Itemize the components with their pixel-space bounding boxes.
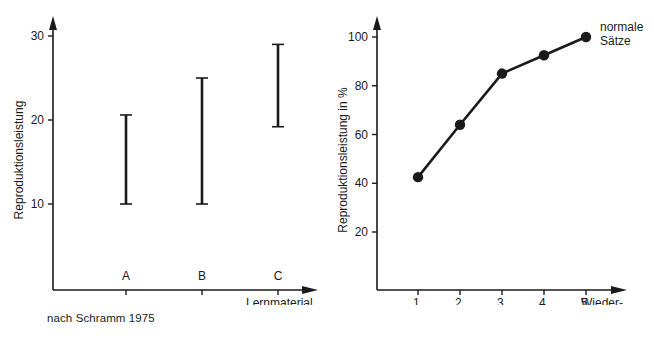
x-tick-label-B: B [198, 269, 206, 283]
y-axis-arrow-icon [49, 16, 57, 30]
x-tick-label-1: 1. [413, 296, 423, 305]
y-tick-label-30: 30 [31, 29, 45, 43]
y-axis-title: Reproduktionsleistung in % [336, 87, 350, 233]
x-axis-arrow-icon [302, 286, 318, 294]
data-point-5 [581, 32, 591, 42]
series-label-line1: normale [600, 20, 644, 34]
x-tick-label-C: C [274, 269, 283, 283]
chart-bierwisch-line-plot: 20406080100Reproduktionsleistung in %1.2… [330, 0, 654, 305]
y-tick-label-60: 60 [355, 128, 369, 142]
data-point-1 [413, 172, 423, 182]
series-line-normale-saetze [418, 37, 586, 177]
range-bar-C [272, 44, 284, 126]
x-axis-title-line1: Wieder- [581, 296, 623, 305]
y-tick-label-100: 100 [348, 30, 368, 44]
chart-schramm-range-plot: 102030ReproduktionsleistungABCLernmateri… [0, 0, 330, 305]
x-tick-label-4: 4. [539, 296, 549, 305]
y-tick-label-20: 20 [355, 225, 369, 239]
x-axis-arrow-icon [611, 286, 627, 294]
caption-schramm: nach Schramm 1975 [47, 312, 155, 324]
y-tick-label-10: 10 [31, 197, 45, 211]
figure-schramm: 102030ReproduktionsleistungABCLernmateri… [0, 0, 330, 345]
x-tick-label-3: 3. [497, 296, 507, 305]
range-bar-B [196, 78, 208, 204]
series-label-line2: Sätze [600, 34, 631, 48]
data-point-4 [539, 50, 549, 60]
data-point-3 [497, 68, 507, 78]
x-tick-label-2: 2. [455, 296, 465, 305]
y-tick-label-40: 40 [355, 176, 369, 190]
figure-bierwisch: 20406080100Reproduktionsleistung in %1.2… [330, 0, 654, 345]
data-point-2 [455, 120, 465, 130]
x-tick-label-A: A [122, 269, 130, 283]
x-axis-title: Lernmaterial [246, 296, 313, 305]
range-bar-A [120, 115, 132, 204]
y-axis-arrow-icon [373, 16, 381, 30]
y-tick-label-20: 20 [31, 113, 45, 127]
y-axis-title: Reproduktionsleistung [12, 101, 26, 220]
y-tick-label-80: 80 [355, 79, 369, 93]
